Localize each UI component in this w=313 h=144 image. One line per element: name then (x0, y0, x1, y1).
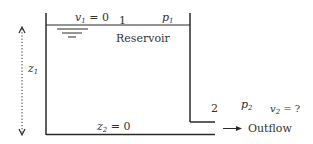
free-surface-icon (57, 29, 88, 37)
reservoir-label: Reservoir (116, 33, 170, 44)
z2-label: z2 = 0 (97, 121, 130, 134)
p1-label: p1 (162, 12, 174, 25)
point1-number: 1 (119, 15, 126, 26)
v2-label: v2 = ? (270, 104, 300, 116)
height-arrow-icon (19, 27, 25, 135)
point2-number: 2 (211, 103, 218, 114)
p2-label: p2 (241, 99, 253, 112)
v1-label: v1 = 0 (75, 12, 109, 25)
z1-label: z1 (28, 63, 38, 76)
outflow-arrow-icon (223, 126, 242, 131)
outflow-label: Outflow (248, 123, 292, 134)
